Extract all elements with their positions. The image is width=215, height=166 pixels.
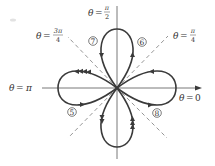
svg-text:7: 7 xyxy=(91,37,96,46)
multi-arrow-left-icon xyxy=(74,69,91,75)
svg-text:θ: θ xyxy=(173,31,179,41)
dashed-line-7pi-over-4 xyxy=(117,88,167,138)
svg-text:θ: θ xyxy=(88,8,94,18)
svg-text:2: 2 xyxy=(105,13,109,21)
svg-text:π: π xyxy=(190,27,196,35)
svg-text:8: 8 xyxy=(155,109,160,118)
loop-marker-5: 5 xyxy=(68,108,77,117)
svg-text:π: π xyxy=(104,4,110,12)
svg-text:6: 6 xyxy=(140,38,145,47)
svg-text:=: = xyxy=(186,93,194,103)
arrow-left-icon xyxy=(149,69,154,74)
label-theta-pi-over-4: θ = π 4 xyxy=(173,27,196,44)
arrow-down-icon xyxy=(99,53,104,58)
svg-text:0: 0 xyxy=(195,93,201,103)
arrow-up-icon xyxy=(130,52,135,57)
svg-text:5: 5 xyxy=(70,108,75,117)
smudge xyxy=(10,19,16,22)
svg-text:3π: 3π xyxy=(54,27,63,35)
svg-text:π: π xyxy=(25,83,33,93)
svg-text:=: = xyxy=(95,8,103,18)
svg-text:θ: θ xyxy=(179,93,185,103)
arrow-right-icon xyxy=(80,102,85,107)
double-arrow-down-icon xyxy=(100,115,105,124)
svg-text:θ: θ xyxy=(36,31,42,41)
loop-marker-8: 8 xyxy=(153,109,162,118)
svg-text:=: = xyxy=(43,31,51,41)
polar-rose-diagram: θ = π 2 θ = 3π 4 θ = π 4 θ = π θ = 0 7 6 xyxy=(0,0,215,166)
triple-arrow-up-icon xyxy=(130,116,135,129)
svg-text:4: 4 xyxy=(56,36,60,44)
loop-marker-6: 6 xyxy=(138,38,147,47)
svg-text:=: = xyxy=(180,31,188,41)
label-theta-3pi-over-4: θ = 3π 4 xyxy=(36,27,63,44)
svg-text:4: 4 xyxy=(191,36,195,44)
loop-marker-7: 7 xyxy=(89,37,98,46)
svg-text:θ: θ xyxy=(9,83,15,93)
label-theta-0: θ = 0 xyxy=(179,93,201,103)
label-theta-pi-over-2: θ = π 2 xyxy=(88,4,110,21)
arrow-right-icon xyxy=(148,103,153,108)
label-theta-pi: θ = π xyxy=(9,83,33,93)
arrow-right-icon xyxy=(195,86,202,91)
svg-text:=: = xyxy=(16,83,24,93)
dashed-line-5pi-over-4 xyxy=(68,88,117,138)
